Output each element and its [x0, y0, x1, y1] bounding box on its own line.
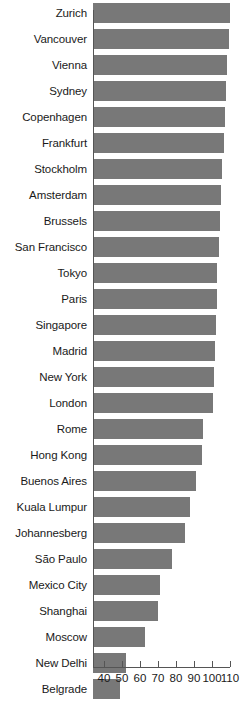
bar-category-label: Sydney [49, 78, 87, 104]
bar-category-label: Vancouver [34, 26, 87, 52]
bar-category-label: New Delhi [35, 650, 87, 676]
x-axis-tick [176, 661, 177, 667]
bar-row: London [0, 390, 249, 416]
bar-track [93, 159, 249, 179]
bar-category-label: Belgrade [42, 676, 87, 702]
x-axis-tick-label: 100 [202, 672, 221, 684]
y-axis-line [93, 10, 94, 668]
x-axis-tick-label: 60 [134, 672, 147, 684]
bar-track [93, 29, 249, 49]
bar-row: Sydney [0, 78, 249, 104]
bar-category-label: San Francisco [15, 234, 87, 260]
bar-row: Vienna [0, 52, 249, 78]
bar [93, 445, 202, 465]
bar-track [93, 289, 249, 309]
bar-category-label: Hong Kong [30, 442, 87, 468]
bar-category-label: Buenos Aires [20, 468, 87, 494]
bar-category-label: Vienna [52, 52, 87, 78]
bar-track [93, 107, 249, 127]
bar-track [93, 523, 249, 543]
bar [93, 497, 190, 517]
bar-category-label: Kuala Lumpur [17, 494, 87, 520]
bar-row: Brussels [0, 208, 249, 234]
bar-category-label: Zurich [56, 0, 87, 26]
bar-category-label: Singapore [35, 312, 87, 338]
bar-category-label: Mexico City [29, 572, 87, 598]
bar [93, 601, 158, 621]
bar-row: Mexico City [0, 572, 249, 598]
bar-track [93, 263, 249, 283]
x-axis-tick-label: 90 [188, 672, 201, 684]
bar [93, 341, 215, 361]
x-axis-tick-label: 70 [152, 672, 165, 684]
bar-category-label: Paris [61, 286, 87, 312]
bar-row: New York [0, 364, 249, 390]
bar-row: Kuala Lumpur [0, 494, 249, 520]
x-axis-tick [212, 661, 213, 667]
x-axis-tick [158, 661, 159, 667]
bar-category-label: London [49, 390, 87, 416]
bar-category-label: Rome [57, 416, 87, 442]
bar-track [93, 549, 249, 569]
bar [93, 29, 229, 49]
x-axis-tick [230, 661, 231, 667]
bar-track [93, 653, 249, 673]
bar-row: Amsterdam [0, 182, 249, 208]
bar [93, 549, 172, 569]
bar-row: Shanghai [0, 598, 249, 624]
bar-track [93, 185, 249, 205]
bar-category-label: São Paulo [35, 546, 87, 572]
x-axis-tick [104, 661, 105, 667]
bar-row: Rome [0, 416, 249, 442]
bar [93, 211, 220, 231]
bar-row: Singapore [0, 312, 249, 338]
bar-row: Zurich [0, 0, 249, 26]
bar-row: Vancouver [0, 26, 249, 52]
bar-row: Buenos Aires [0, 468, 249, 494]
bar-category-label: Tokyo [57, 260, 87, 286]
bar [93, 107, 225, 127]
bar-track [93, 211, 249, 231]
bar [93, 263, 217, 283]
bar [93, 471, 196, 491]
bar-row: Moscow [0, 624, 249, 650]
bar [93, 575, 160, 595]
bar [93, 653, 126, 673]
bar-row: San Francisco [0, 234, 249, 260]
plot-area: ZurichVancouverViennaSydneyCopenhagenFra… [0, 0, 249, 660]
bar [93, 627, 145, 647]
x-axis-tick-label: 110 [221, 672, 239, 684]
bar-track [93, 367, 249, 387]
bar-row: Madrid [0, 338, 249, 364]
bar-track [93, 393, 249, 413]
bar-category-label: Copenhagen [22, 104, 87, 130]
bar-row: Johannesberg [0, 520, 249, 546]
bar-track [93, 133, 249, 153]
bar-row: São Paulo [0, 546, 249, 572]
x-axis-tick [194, 661, 195, 667]
bar-category-label: Madrid [52, 338, 87, 364]
x-axis-tick-label: 50 [116, 672, 129, 684]
bar-category-label: Shanghai [39, 598, 87, 624]
bar-track [93, 315, 249, 335]
bar [93, 393, 213, 413]
bar-row: Hong Kong [0, 442, 249, 468]
bar [93, 523, 185, 543]
bar [93, 315, 216, 335]
bar [93, 367, 214, 387]
bar-category-label: Moscow [45, 624, 87, 650]
x-axis-tick-label: 80 [170, 672, 183, 684]
bar [93, 159, 222, 179]
bar-track [93, 81, 249, 101]
bar-track [93, 627, 249, 647]
bar-track [93, 497, 249, 517]
bar [93, 81, 226, 101]
bar-track [93, 419, 249, 439]
bar [93, 237, 219, 257]
bar-track [93, 445, 249, 465]
bar [93, 185, 221, 205]
bar-category-label: Johannesberg [15, 520, 87, 546]
bar-category-label: Frankfurt [42, 130, 87, 156]
bar [93, 133, 224, 153]
